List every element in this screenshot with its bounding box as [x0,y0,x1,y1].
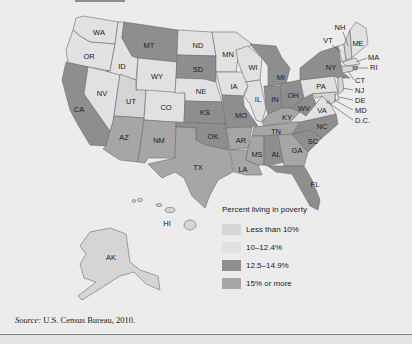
label-wa: WA [93,28,105,37]
label-ct: CT [355,76,365,85]
label-ak: AK [106,253,116,262]
source-text: U.S. Census Bureau, 2010. [41,315,135,325]
label-tn: TN [271,127,281,136]
legend-label: Less than 10% [246,225,299,234]
label-la: LA [238,165,247,174]
label-ky: KY [282,113,292,122]
label-in: IN [271,95,279,104]
legend-label: 15% or more [246,279,292,288]
label-nh: NH [335,23,346,32]
label-il: IL [255,95,261,104]
label-sd: SD [193,65,204,74]
source-note: Source: U.S. Census Bureau, 2010. [15,315,135,325]
source-prefix: Source: [15,315,41,325]
legend-swatch [222,242,241,253]
label-mn: MN [222,50,234,59]
label-ne: NE [196,87,206,96]
legend-item-10-12-4: 10–12.4% [222,238,307,256]
label-ca: CA [74,105,84,114]
label-ia: IA [230,82,237,91]
label-mo: MO [235,111,247,120]
label-nv: NV [97,89,107,98]
legend-item-15-or-more: 15% or more [222,274,307,292]
state-dc [327,101,330,104]
label-wv: WV [298,104,310,113]
state-ak [78,228,160,300]
label-ga: GA [292,146,303,155]
label-hi: HI [163,219,171,228]
label-fl: FL [311,180,320,189]
legend-swatch [222,278,241,289]
legend-item-less-than-10: Less than 10% [222,220,307,238]
label-ri: RI [370,63,378,72]
label-nj: NJ [355,86,364,95]
label-va: VA [317,106,326,115]
label-ok: OK [208,132,219,141]
label-ma: MA [368,53,379,62]
label-oh: OH [287,91,298,100]
label-wy: WY [151,72,163,81]
label-sc: SC [308,137,319,146]
map-legend: Percent living in poverty Less than 10% … [222,205,307,292]
label-mt: MT [144,41,155,50]
label-or: OR [83,52,95,61]
label-nm: NM [153,136,165,145]
bottom-band [0,335,412,344]
label-nd: ND [193,41,204,50]
legend-label: 10–12.4% [246,243,282,252]
label-co: CO [160,103,171,112]
label-ks: KS [200,108,210,117]
label-wi: WI [248,63,257,72]
label-id: ID [118,62,126,71]
label-ny: NY [326,63,336,72]
label-al: AL [271,150,280,159]
label-dc: D.C. [355,116,370,125]
label-az: AZ [119,133,129,142]
legend-label: 12.5–14.9% [246,261,289,270]
legend-title: Percent living in poverty [222,205,307,214]
state-ct [342,66,353,73]
legend-swatch [222,224,241,235]
label-me: ME [352,39,363,48]
us-poverty-map: WA OR CA NV ID MT WY UT CO AZ NM ND SD N… [0,0,412,320]
label-mi: MI [277,73,285,82]
legend-swatch [222,260,241,271]
state-de [335,94,339,100]
label-tx: TX [193,163,203,172]
label-nc: NC [317,122,328,131]
state-ri [353,66,358,70]
label-ar: AR [236,136,247,145]
label-vt: VT [323,36,333,45]
legend-item-12-5-14-9: 12.5–14.9% [222,256,307,274]
label-pa: PA [316,82,325,91]
state-nj [338,76,344,94]
label-ms: MS [251,150,262,159]
label-md: MD [355,106,367,115]
label-ut: UT [126,97,136,106]
label-de: DE [355,96,365,105]
